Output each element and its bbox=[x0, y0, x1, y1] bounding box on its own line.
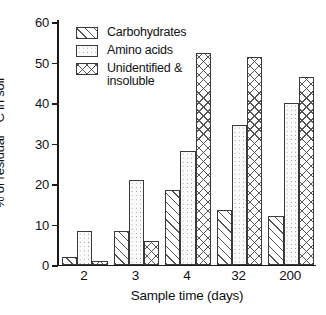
y-axis-tick-label: 50 bbox=[35, 56, 49, 69]
legend-swatch-carbohydrates-icon bbox=[76, 27, 98, 39]
x-axis-tick-label: 3 bbox=[132, 268, 139, 283]
bar-carbohydrates-3 bbox=[114, 231, 129, 265]
y-axis-tick-label: 40 bbox=[35, 97, 49, 110]
x-axis-title: Sample time (days) bbox=[58, 288, 316, 303]
bar-unidentified-insoluble-4 bbox=[196, 53, 211, 265]
y-axis-title-prefix: % of residual bbox=[0, 132, 7, 208]
x-axis-tick-label: 32 bbox=[231, 268, 246, 283]
y-axis-tick-label: 10 bbox=[35, 218, 49, 231]
y-axis-title-superscript: 14 bbox=[0, 122, 1, 132]
legend-swatch-amino-acids-icon bbox=[76, 45, 98, 57]
legend-item-unidentified-insoluble: Unidentified & insoluble bbox=[76, 62, 186, 87]
bar-carbohydrates-32 bbox=[217, 210, 232, 265]
y-axis-tick bbox=[52, 103, 58, 105]
bar-unidentified-insoluble-3 bbox=[144, 241, 159, 265]
bar-carbohydrates-4 bbox=[165, 190, 180, 265]
bar-amino-acids-4 bbox=[180, 151, 195, 265]
bar-unidentified-insoluble-200 bbox=[299, 77, 314, 265]
y-axis-tick bbox=[52, 144, 58, 146]
legend-label-carbohydrates: Carbohydrates bbox=[107, 26, 186, 39]
bar-unidentified-insoluble-2 bbox=[92, 261, 107, 265]
x-axis-tick-label: 200 bbox=[279, 268, 301, 283]
bar-amino-acids-3 bbox=[129, 180, 144, 265]
y-axis-tick bbox=[52, 225, 58, 227]
bar-amino-acids-32 bbox=[232, 125, 247, 265]
legend-swatch-unidentified-insoluble-icon bbox=[76, 63, 98, 75]
bar-carbohydrates-200 bbox=[268, 216, 283, 265]
x-axis-tick-label: 4 bbox=[183, 268, 190, 283]
y-axis-tick-label: 20 bbox=[35, 178, 49, 191]
bar-carbohydrates-2 bbox=[62, 257, 77, 265]
bar-chart: % of residual 14C in soil Sample time (d… bbox=[0, 0, 326, 315]
y-axis-tick-label: 60 bbox=[35, 16, 49, 29]
bar-unidentified-insoluble-32 bbox=[247, 57, 262, 265]
legend-item-carbohydrates: Carbohydrates bbox=[76, 26, 186, 39]
legend-label-unidentified-insoluble: Unidentified & insoluble bbox=[107, 62, 182, 87]
y-axis-tick-label: 30 bbox=[35, 137, 49, 150]
legend: Carbohydrates Amino acids Unidentified &… bbox=[76, 26, 186, 92]
y-axis-tick bbox=[52, 22, 58, 24]
y-axis-title-suffix: C in soil bbox=[0, 78, 7, 122]
y-axis-tick bbox=[52, 265, 58, 267]
legend-label-amino-acids: Amino acids bbox=[107, 44, 173, 57]
bar-amino-acids-2 bbox=[77, 231, 92, 265]
legend-item-amino-acids: Amino acids bbox=[76, 44, 186, 57]
y-axis-tick bbox=[52, 184, 58, 186]
x-axis-tick-label: 2 bbox=[80, 268, 87, 283]
bar-amino-acids-200 bbox=[284, 103, 299, 265]
y-axis-tick-label: 0 bbox=[42, 259, 49, 272]
y-axis-tick bbox=[52, 63, 58, 65]
y-axis-title: % of residual 14C in soil bbox=[0, 78, 7, 208]
